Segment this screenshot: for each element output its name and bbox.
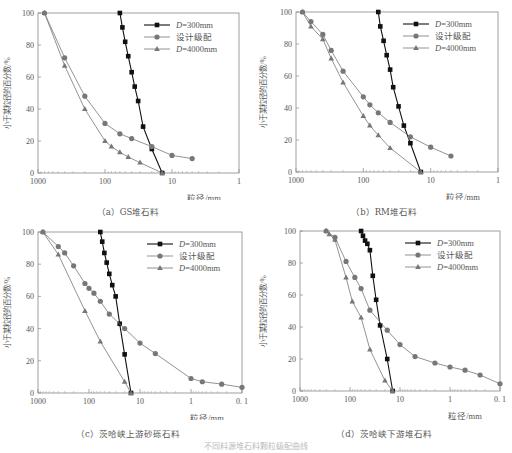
triangle-marker xyxy=(62,63,68,68)
circle-marker xyxy=(71,263,76,268)
square-marker xyxy=(370,274,375,279)
circle-marker xyxy=(157,253,162,258)
triangle-marker xyxy=(413,45,419,50)
circle-marker xyxy=(169,153,174,158)
triangle-marker xyxy=(367,346,373,351)
triangle-marker xyxy=(328,55,334,60)
y-tick-label: 100 xyxy=(22,228,34,237)
legend-item: 设计级配 xyxy=(403,31,471,41)
x-tick-label: 1000 xyxy=(30,397,46,406)
square-marker xyxy=(391,85,396,90)
circle-marker xyxy=(107,312,112,317)
circle-marker xyxy=(340,69,345,74)
y-tick-label: 20 xyxy=(288,355,296,364)
chart-a-caption: （a）GS堆石料 xyxy=(0,205,256,217)
circle-marker xyxy=(343,259,348,264)
x-tick-label: 0. 1 xyxy=(236,397,248,406)
series-design xyxy=(324,228,503,386)
triangle-marker xyxy=(343,274,349,279)
legend-item: 设计级配 xyxy=(405,250,473,260)
square-marker xyxy=(110,283,115,288)
legend-item: D=4000mm xyxy=(403,43,477,53)
series-line xyxy=(45,13,193,159)
square-marker xyxy=(126,54,131,59)
circle-marker xyxy=(82,281,87,286)
circle-marker xyxy=(367,102,372,107)
y-tick-label: 100 xyxy=(280,8,292,17)
circle-marker xyxy=(415,252,420,257)
square-marker xyxy=(102,251,107,256)
square-marker xyxy=(396,104,401,109)
circle-marker xyxy=(432,360,437,365)
square-marker xyxy=(414,22,419,27)
y-tick-label: 60 xyxy=(26,292,34,301)
x-tick-label: 10 xyxy=(136,397,144,406)
chart-panel-a: 0204060801001000100101粒径/mm小于某粒径的百分数/%D=… xyxy=(0,0,256,226)
series-d300 xyxy=(98,230,133,396)
square-marker xyxy=(378,24,383,29)
series-d4000 xyxy=(40,229,134,395)
circle-marker xyxy=(149,144,154,149)
square-marker xyxy=(416,241,421,246)
triangle-marker xyxy=(98,338,104,343)
y-tick-label: 100 xyxy=(22,9,34,18)
circle-marker xyxy=(91,291,96,296)
circle-marker xyxy=(62,55,67,60)
x-axis-label: 粒径/mm xyxy=(446,192,480,200)
y-tick-label: 60 xyxy=(284,72,292,81)
chart-d-plot: 02040608010010001001010. 1粒径/mm小于某粒径的百分数… xyxy=(256,220,512,420)
circle-marker xyxy=(412,354,417,359)
series-line xyxy=(326,231,393,391)
square-marker xyxy=(141,124,146,129)
legend-item: D=300mm xyxy=(147,239,216,249)
y-tick-label: 20 xyxy=(284,136,292,145)
square-marker xyxy=(136,99,141,104)
square-marker xyxy=(385,357,390,362)
y-tick-label: 40 xyxy=(26,105,34,114)
square-marker xyxy=(388,67,393,72)
y-tick-label: 40 xyxy=(288,323,296,332)
x-tick-label: 1000 xyxy=(288,176,304,185)
chart-panel-c: 02040608010010001001010. 1粒径/mm小于某粒径的百分数… xyxy=(0,220,256,445)
square-marker xyxy=(361,234,366,239)
square-marker xyxy=(122,352,127,357)
chart-c-plot: 02040608010010001001010. 1粒径/mm小于某粒径的百分数… xyxy=(0,220,256,420)
x-axis-label: 粒径/mm xyxy=(187,193,221,200)
circle-marker xyxy=(188,376,193,381)
legend: D=300mm设计级配D=4000mm xyxy=(403,19,477,53)
triangle-marker xyxy=(340,79,346,84)
chart-panel-d: 02040608010010001001010. 1粒径/mm小于某粒径的百分数… xyxy=(256,220,512,445)
x-tick-label: 1 xyxy=(237,177,241,186)
circle-marker xyxy=(358,286,363,291)
legend-item: D=4000mm xyxy=(147,263,221,273)
chart-d-caption: （d）茨哈峡下游堆石料 xyxy=(256,427,512,439)
circle-marker xyxy=(154,34,159,39)
square-marker xyxy=(107,272,112,277)
square-marker xyxy=(359,229,364,234)
triangle-marker xyxy=(109,144,115,149)
circle-marker xyxy=(478,372,483,377)
circle-marker xyxy=(385,328,390,333)
triangle-marker xyxy=(125,154,131,159)
legend-label: D=300mm xyxy=(436,238,474,248)
x-tick-label: 1 xyxy=(448,395,452,404)
triangle-marker xyxy=(361,113,367,118)
circle-marker xyxy=(462,368,467,373)
square-marker xyxy=(368,248,373,253)
circle-marker xyxy=(497,381,502,386)
circle-marker xyxy=(408,134,413,139)
legend-label: D=4000mm xyxy=(178,263,221,273)
square-marker xyxy=(129,70,134,75)
figure-caption: 不同料源堆石料颗粒级配曲线 xyxy=(0,440,512,451)
y-tick-label: 60 xyxy=(26,73,34,82)
circle-marker xyxy=(117,131,122,136)
triangle-marker xyxy=(82,308,88,313)
y-axis-label: 小于某粒径的百分数/% xyxy=(258,56,268,127)
series-d300 xyxy=(359,229,395,394)
chart-a-plot: 0204060801001000100101粒径/mm小于某粒径的百分数/%D=… xyxy=(0,0,256,200)
circle-marker xyxy=(190,156,195,161)
chart-panel-b: 0204060801001000100101粒径/mm小于某粒径的百分数/%D=… xyxy=(256,0,512,226)
legend-label: 设计级配 xyxy=(179,251,215,261)
square-marker xyxy=(384,53,389,58)
square-marker xyxy=(118,11,123,16)
